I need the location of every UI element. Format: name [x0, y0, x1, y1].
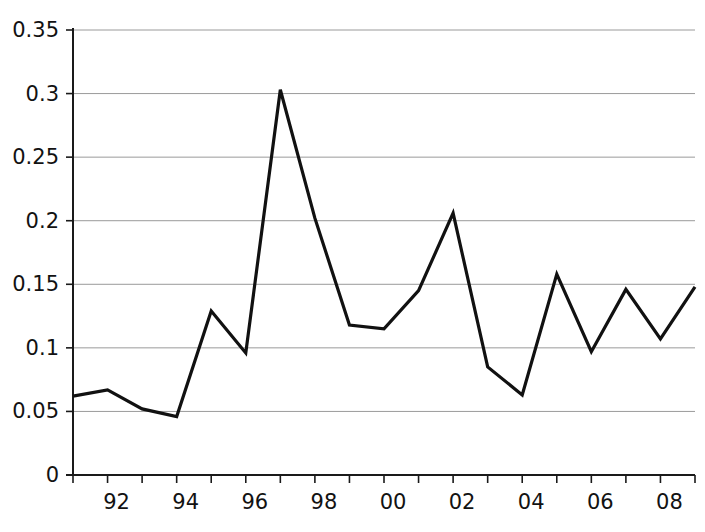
- x-tick-label-6: 04: [518, 490, 545, 514]
- y-tick-label-7: 0.35: [12, 18, 59, 42]
- chart-background: [0, 0, 705, 532]
- y-tick-label-3: 0.15: [12, 272, 59, 296]
- x-tick-label-8: 08: [656, 490, 683, 514]
- line-chart: 00.050.10.150.20.250.30.35 9294969800020…: [0, 0, 705, 532]
- x-tick-label-0: 92: [103, 490, 130, 514]
- y-tick-label-5: 0.25: [12, 145, 59, 169]
- y-tick-label-4: 0.2: [26, 209, 59, 233]
- y-tick-label-6: 0.3: [26, 82, 59, 106]
- x-tick-label-2: 96: [241, 490, 268, 514]
- chart-canvas: 00.050.10.150.20.250.30.35 9294969800020…: [0, 0, 705, 532]
- x-tick-label-3: 98: [311, 490, 338, 514]
- x-tick-label-1: 94: [172, 490, 199, 514]
- y-tick-label-1: 0.05: [12, 399, 59, 423]
- x-tick-label-5: 02: [449, 490, 476, 514]
- x-tick-label-4: 00: [380, 490, 407, 514]
- y-tick-label-0: 0: [46, 463, 59, 487]
- x-axis-tick-labels: 929496980002040608: [103, 490, 683, 514]
- y-tick-label-2: 0.1: [26, 336, 59, 360]
- x-tick-label-7: 06: [587, 490, 614, 514]
